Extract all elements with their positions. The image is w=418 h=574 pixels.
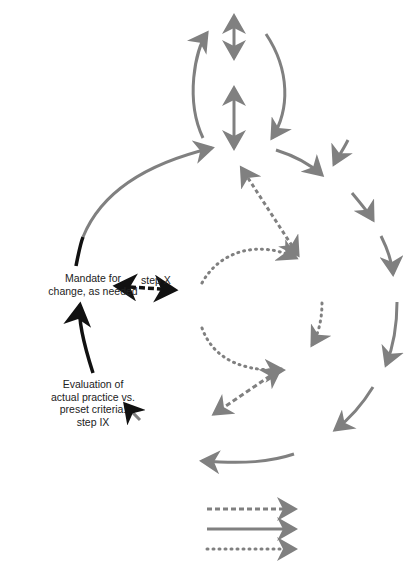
inner-arrows — [202, 178, 322, 414]
evaluation-line-1: Evaluation of — [38, 378, 148, 391]
evaluation-line-4: step IX — [38, 416, 148, 429]
step-x-label: step X — [136, 274, 176, 287]
outer-cycle-arrows — [125, 140, 397, 462]
mandate-line-1: Mandate for — [38, 272, 148, 285]
legend — [207, 509, 295, 549]
mandate-label: Mandate for change, as needed — [38, 272, 148, 297]
evaluation-line-3: preset criteria: — [38, 403, 148, 416]
left-cycle-arrows — [76, 148, 212, 373]
evaluation-label: Evaluation of actual practice vs. preset… — [38, 378, 148, 428]
mandate-line-2: change, as needed — [38, 285, 148, 298]
evaluation-line-2: actual practice vs. — [38, 391, 148, 404]
top-loop-arrows — [193, 28, 285, 148]
